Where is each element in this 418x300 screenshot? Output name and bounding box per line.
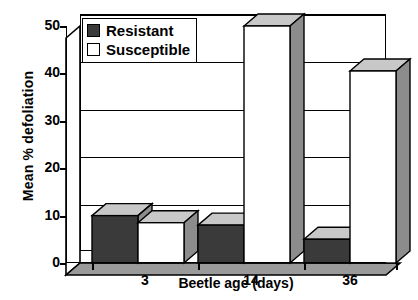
- y-tick-label-30: 30: [26, 112, 60, 128]
- chart-figure: Mean % defoliation 50 40 30 20 10 0: [0, 0, 418, 300]
- legend-swatch-resistant-icon: [87, 24, 100, 37]
- y-tick-label-50: 50: [26, 17, 60, 33]
- y-tick-label-40: 40: [26, 64, 60, 80]
- y-tick-label-20: 20: [26, 159, 60, 175]
- bar-susceptible-36: [350, 26, 418, 263]
- chart-legend: Resistant Susceptible: [82, 18, 197, 63]
- x-axis-title: Beetle age (days): [62, 275, 410, 291]
- legend-swatch-susceptible-icon: [87, 43, 100, 56]
- x-tick-mark-2: [304, 263, 306, 270]
- x-tick-mark-left: [92, 263, 94, 270]
- x-tick-mark-right: [396, 263, 398, 270]
- y-tick-label-10: 10: [26, 207, 60, 223]
- legend-label-resistant: Resistant: [106, 23, 174, 38]
- bar-front-face: [138, 223, 184, 263]
- x-tick-mark-1: [198, 263, 200, 270]
- bar-front-face: [304, 239, 350, 263]
- bar-front-face: [198, 225, 244, 263]
- bar-side-face: [396, 59, 410, 263]
- bar-side-face: [290, 14, 304, 263]
- bar-front-face: [244, 26, 290, 263]
- y-axis-tick-labels: 50 40 30 20 10 0: [26, 0, 60, 300]
- y-tick-label-0: 0: [26, 254, 60, 270]
- y-axis-line: [66, 26, 67, 263]
- legend-entry-susceptible: Susceptible: [87, 40, 190, 59]
- legend-entry-resistant: Resistant: [87, 21, 190, 40]
- legend-label-susceptible: Susceptible: [106, 42, 190, 57]
- bar-front-face: [350, 71, 396, 263]
- bar-front-face: [92, 216, 138, 263]
